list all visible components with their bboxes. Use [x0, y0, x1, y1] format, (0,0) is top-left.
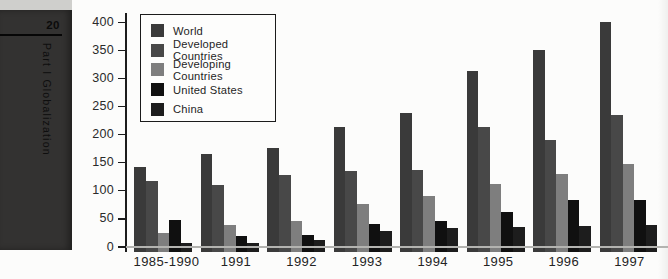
x-label-1991: 1991: [207, 254, 265, 269]
y-tick-mark-200: [118, 134, 125, 135]
legend-swatch-united-states: [151, 83, 164, 96]
bar-world-1993: [334, 127, 346, 252]
book-page-scan: 20 Part I Globalization 0501001502002503…: [0, 0, 668, 279]
legend-swatch-china: [151, 103, 164, 116]
bar-developing-countries-1997: [623, 164, 635, 252]
fdi-bar-chart: 050100150200250300350400 1985-1990199119…: [0, 0, 668, 279]
y-tick-label-200: 200: [78, 127, 114, 141]
legend-swatch-developed-countries: [151, 44, 164, 57]
x-label-1996: 1996: [535, 254, 593, 269]
bar-world-1992: [267, 148, 279, 252]
bar-world-1985-1990: [134, 167, 146, 252]
y-tick-mark-0: [118, 246, 125, 247]
bar-developed-countries-1995: [478, 127, 490, 252]
legend-label-world: World: [173, 25, 203, 37]
bar-group-1996: [533, 50, 591, 252]
bar-world-1996: [533, 50, 545, 252]
y-tick-label-150: 150: [78, 155, 114, 169]
x-label-1985-1990: 1985-1990: [134, 254, 200, 269]
y-tick-label-400: 400: [78, 15, 114, 29]
scan-shading: [658, 0, 668, 279]
y-tick-label-250: 250: [78, 99, 114, 113]
y-tick-label-350: 350: [78, 43, 114, 57]
bar-united-states-1997: [634, 200, 646, 252]
legend-swatch-world: [151, 24, 164, 37]
chart-legend: WorldDeveloped CountriesDeveloping Count…: [140, 14, 276, 122]
bar-group-1994: [400, 113, 458, 252]
bar-developed-countries-1992: [279, 175, 291, 252]
y-tick-label-300: 300: [78, 71, 114, 85]
bar-developing-countries-1996: [556, 174, 568, 252]
bar-developed-countries-1991: [212, 185, 224, 252]
bar-developed-countries-1997: [611, 115, 623, 252]
bar-developing-countries-1994: [423, 196, 435, 252]
y-tick-mark-300: [118, 78, 125, 79]
y-tick-mark-100: [118, 190, 125, 191]
bar-united-states-1996: [568, 200, 580, 252]
bar-china-1993: [380, 231, 392, 252]
legend-label-china: China: [173, 103, 203, 115]
bar-developed-countries-1985-1990: [146, 181, 158, 252]
legend-label-united-states: United States: [173, 84, 243, 96]
bar-developing-countries-1995: [490, 184, 502, 253]
y-tick-label-50: 50: [78, 211, 114, 225]
y-tick-mark-150: [118, 162, 125, 163]
bar-group-1997: [600, 22, 658, 252]
x-label-1997: 1997: [600, 254, 658, 269]
bar-china-1996: [579, 226, 591, 252]
x-label-1992: 1992: [273, 254, 331, 269]
x-label-1994: 1994: [404, 254, 462, 269]
y-tick-label-100: 100: [78, 183, 114, 197]
x-axis-line: [126, 246, 668, 248]
bar-china-1994: [447, 228, 459, 252]
y-tick-mark-50: [118, 218, 125, 219]
bar-developing-countries-1991: [224, 225, 236, 252]
bar-group-1993: [334, 127, 392, 252]
legend-item-developing-countries: Developing Countries: [151, 60, 275, 80]
legend-item-united-states: United States: [151, 80, 275, 100]
legend-item-china: China: [151, 99, 275, 119]
bar-china-1995: [513, 227, 525, 252]
y-tick-label-0: 0: [78, 240, 114, 254]
y-tick-mark-350: [118, 50, 125, 51]
bar-developed-countries-1996: [545, 140, 557, 252]
bar-developing-countries-1993: [357, 204, 369, 252]
y-tick-mark-400: [118, 22, 125, 23]
x-axis-labels: 1985-19901991199219931994199519961997: [126, 254, 666, 269]
bar-world-1994: [400, 113, 412, 252]
bar-group-1992: [267, 148, 325, 252]
bar-united-states-1993: [369, 224, 381, 252]
bar-developed-countries-1993: [345, 171, 357, 252]
bar-developed-countries-1994: [412, 170, 424, 252]
bar-world-1995: [467, 71, 479, 252]
bar-china-1997: [646, 225, 658, 252]
bar-world-1997: [600, 22, 612, 252]
bar-united-states-1992: [302, 235, 314, 252]
bar-group-1991: [201, 154, 259, 252]
legend-label-developing-countries: Developing Countries: [173, 58, 275, 82]
bar-world-1991: [201, 154, 213, 252]
bar-group-1995: [467, 71, 525, 252]
x-label-1995: 1995: [469, 254, 527, 269]
legend-swatch-developing-countries: [151, 63, 164, 76]
x-label-1993: 1993: [338, 254, 396, 269]
bar-developing-countries-1985-1990: [158, 233, 170, 252]
bar-group-1985-1990: [134, 167, 192, 252]
y-tick-mark-250: [118, 106, 125, 107]
bar-united-states-1991: [236, 236, 248, 252]
